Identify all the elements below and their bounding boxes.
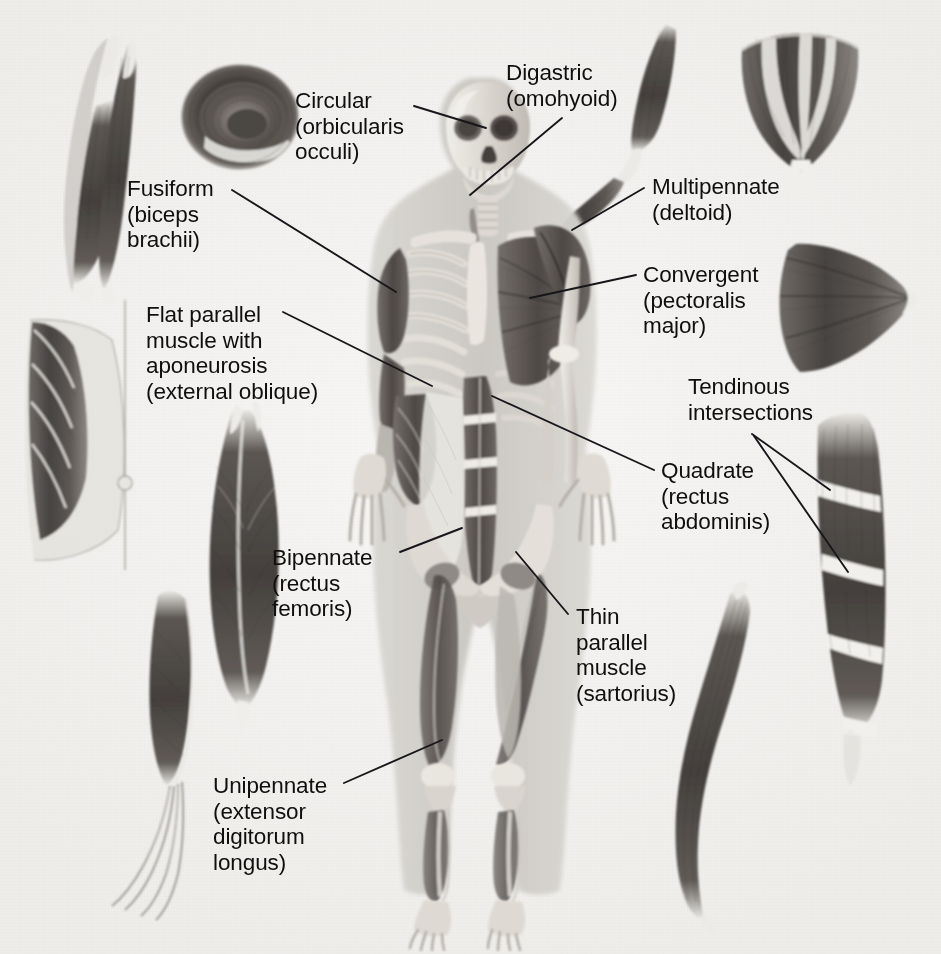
leader-multipennate (572, 188, 644, 230)
leader-unipennate (344, 740, 442, 783)
label-quadrate: Quadrate (rectus abdominis) (661, 458, 770, 535)
leader-line-layer (0, 0, 941, 954)
label-tendinous-intersections: Tendinous intersections (688, 374, 813, 425)
label-circular: Circular (orbicularis occuli) (295, 88, 404, 165)
label-flat-parallel: Flat parallel muscle with aponeurosis (e… (146, 302, 318, 404)
label-convergent: Convergent (pectoralis major) (643, 262, 758, 339)
leader-thin-parallel (516, 552, 568, 614)
muscle-shapes-figure: Circular (orbicularis occuli)Digastric (… (0, 0, 941, 954)
leader-convergent (530, 275, 636, 298)
leader-digastric (470, 118, 562, 195)
label-unipennate: Unipennate (extensor digitorum longus) (213, 773, 327, 875)
leader-circular (414, 106, 486, 128)
leader-bipennate (400, 528, 462, 552)
leader-quadrate (492, 396, 654, 470)
leader-fusiform (232, 190, 396, 292)
label-fusiform: Fusiform (biceps brachii) (127, 176, 214, 253)
label-bipennate: Bipennate (rectus femoris) (272, 545, 372, 622)
label-digastric: Digastric (omohyoid) (506, 60, 618, 111)
label-multipennate: Multipennate (deltoid) (652, 174, 780, 225)
label-thin-parallel: Thin parallel muscle (sartorius) (576, 604, 676, 706)
